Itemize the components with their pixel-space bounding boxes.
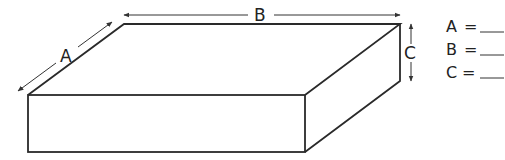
- answer-b-equals: =: [464, 40, 477, 59]
- answer-c[interactable]: C =: [446, 63, 504, 82]
- dimension-a-arrow-upper: [78, 22, 112, 47]
- answer-a[interactable]: A =: [446, 17, 504, 36]
- answer-b[interactable]: B =: [446, 40, 504, 59]
- dimension-c: C: [404, 24, 416, 81]
- prism-diagram: A B C A = B = C =: [0, 0, 505, 160]
- answer-list: A = B = C =: [446, 17, 504, 82]
- prism-front-face: [28, 95, 305, 152]
- dimension-a: A: [18, 22, 112, 91]
- dimension-a-label: A: [60, 46, 72, 66]
- dimension-a-arrow-lower: [18, 63, 56, 91]
- answer-c-label: C: [446, 63, 457, 82]
- answer-c-equals: =: [462, 63, 475, 82]
- prism-side-face: [305, 24, 400, 152]
- dimension-c-label: C: [404, 43, 416, 63]
- prism-top-face: [28, 24, 400, 95]
- answer-a-label: A: [446, 17, 457, 36]
- answer-a-equals: =: [464, 17, 477, 36]
- dimension-b: B: [124, 5, 400, 25]
- answer-b-label: B: [446, 40, 457, 59]
- dimension-b-label: B: [254, 5, 266, 25]
